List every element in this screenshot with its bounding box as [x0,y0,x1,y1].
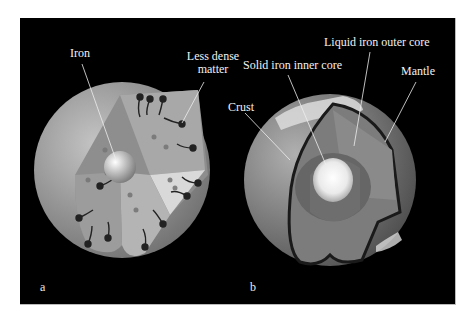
label-less-dense-line2: matter [181,63,245,76]
label-solid-iron-inner-core: Solid iron inner core [243,59,342,72]
label-liquid-iron-outer-core: Liquid iron outer core [324,36,430,49]
iron-core-ball [104,151,136,183]
inner-core [313,158,353,202]
panel-letter-b: b [250,280,256,295]
panel-letter-a: a [40,280,45,295]
label-less-dense-matter: Less dense matter [181,50,245,76]
label-crust: Crust [228,101,254,114]
label-iron: Iron [70,47,90,60]
planetesimal-sphere [34,82,210,258]
label-mantle: Mantle [401,65,435,78]
earth-cutaway-sphere [244,94,416,266]
